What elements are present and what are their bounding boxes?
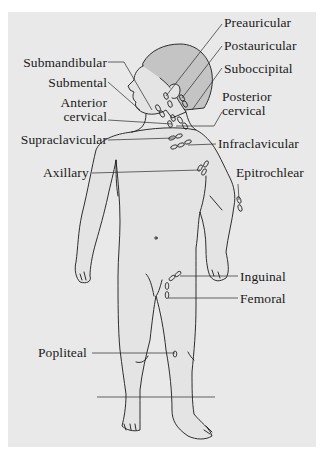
- label-suboccipital: Suboccipital: [224, 62, 293, 75]
- label-epitrochlear: Epitrochlear: [236, 166, 304, 179]
- label-submandibular: Submandibular: [23, 56, 107, 69]
- label-postauricular: Postauricular: [224, 39, 297, 52]
- leader-anterior-cervical: [108, 120, 172, 124]
- label-infraclavicular: Infraclavicular: [218, 137, 299, 150]
- label-anterior-cervical-line2: cervical: [63, 110, 107, 123]
- label-supraclavicular: Supraclavicular: [21, 133, 107, 146]
- label-femoral: Femoral: [240, 292, 286, 305]
- label-posterior-cervical-line2: cervical: [222, 104, 266, 117]
- label-preauricular: Preauricular: [224, 16, 291, 29]
- label-anterior-cervical-line1: Anterior: [60, 96, 107, 109]
- torso-and-arms: [75, 128, 235, 439]
- leader-epitrochlear: [238, 184, 239, 200]
- label-axillary: Axillary: [43, 166, 89, 179]
- label-inguinal: Inguinal: [240, 270, 286, 283]
- label-popliteal: Popliteal: [38, 346, 87, 359]
- neck-left: [132, 114, 146, 132]
- label-submental: Submental: [48, 76, 107, 89]
- label-posterior-cervical-line1: Posterior: [222, 90, 272, 103]
- lymph-nodes-epitrochlear: [236, 196, 243, 212]
